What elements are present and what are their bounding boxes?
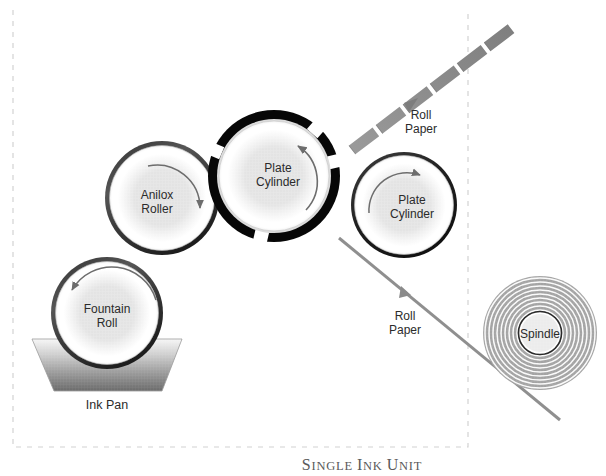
spindle-label: Spindle	[520, 327, 560, 341]
anilox-roller-label-line2: Roller	[141, 202, 172, 216]
roll-paper-incoming-label-line2: Paper	[405, 122, 437, 136]
roll-paper-incoming-label-line1: Roll	[411, 108, 432, 122]
figure-caption: SINGLE INK UNIT	[302, 456, 422, 473]
anilox-roller: Anilox Roller	[105, 141, 219, 255]
plate-cylinder-center-label-line1: Plate	[264, 161, 292, 175]
plate-cylinder-right-label-line1: Plate	[398, 193, 426, 207]
plate-cylinder-right: Plate Cylinder	[351, 152, 457, 258]
roll-paper-outgoing-label-line1: Roll	[395, 309, 416, 323]
spindle: Spindle	[483, 276, 597, 390]
fountain-roll-label-line2: Roll	[97, 316, 118, 330]
roll-paper-outgoing-label: Roll Paper	[389, 309, 421, 337]
single-ink-unit-diagram: Ink Pan Fountain Roll Anilox Roller	[0, 0, 606, 476]
roll-paper-incoming-label: Roll Paper	[405, 108, 437, 136]
anilox-roller-label-line1: Anilox	[141, 188, 174, 202]
ink-pan-label: Ink Pan	[86, 398, 128, 412]
diagram-canvas: Ink Pan Fountain Roll Anilox Roller	[0, 0, 606, 476]
plate-cylinder-center-label-line2: Cylinder	[256, 175, 300, 189]
plate-cylinder-right-label-line2: Cylinder	[390, 207, 434, 221]
roll-paper-outgoing-label-line2: Paper	[389, 323, 421, 337]
fountain-roll: Fountain Roll	[51, 257, 163, 369]
fountain-roll-label-line1: Fountain	[84, 302, 131, 316]
